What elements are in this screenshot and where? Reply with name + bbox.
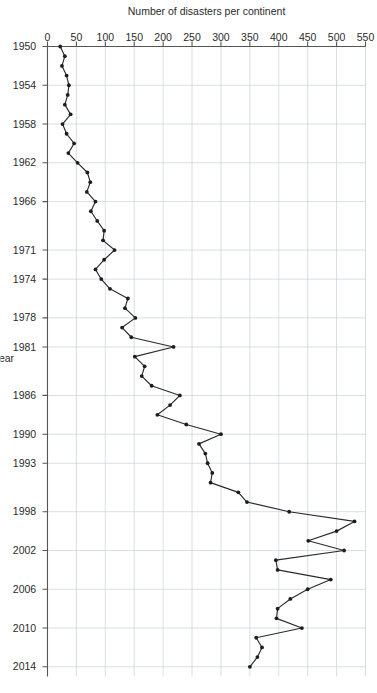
data-point [93,267,97,271]
x-tick-label: 1950 [12,40,36,52]
data-point [184,422,188,426]
data-point [205,461,209,465]
plot-area: 1950195419581962196619711974197819811986… [0,0,377,693]
data-point [120,325,124,329]
data-point [65,93,69,97]
y-tick-label: 350 [241,31,259,43]
y-tick-label: 250 [183,31,201,43]
x-axis-title: Year [0,351,14,363]
data-markers [58,44,356,668]
data-point [58,44,62,48]
y-axis-title: Number of disasters per continent [127,4,285,16]
x-tick-label: 1998 [12,505,36,517]
x-tick-label: 1954 [12,78,36,90]
y-tick-label: 550 [356,31,374,43]
x-tick-label: 1962 [12,156,36,168]
line-chart: 1950195419581962196619711974197819811986… [0,0,377,693]
data-point [68,112,72,116]
data-point [306,538,310,542]
x-axis-tick-labels: 1950195419581962196619711974197819811986… [12,40,36,672]
x-tick-label: 1971 [12,243,36,255]
data-point [236,490,240,494]
y-tick-label: 450 [298,31,316,43]
data-point [66,83,70,87]
gridlines [47,46,365,676]
data-point [210,471,214,475]
x-tick-label: 2014 [12,660,36,672]
y-axis-tick-labels: 050100150200250300350400450500550 [44,31,374,43]
data-point [254,635,258,639]
data-point [125,296,129,300]
x-tick-label: 1990 [12,427,36,439]
x-tick-label: 2006 [12,582,36,594]
axes [47,46,365,676]
x-tick-label: 2010 [12,621,36,633]
data-point [64,131,68,135]
chart-figure: 1950195419581962196619711974197819811986… [0,0,377,693]
y-tick-label: 500 [327,31,345,43]
data-point [101,238,105,242]
x-tick-label: 1966 [12,195,36,207]
x-tick-label: 1986 [12,388,36,400]
x-tick-label: 1978 [12,311,36,323]
y-tick-label: 300 [212,31,230,43]
data-point [99,277,103,281]
x-tick-label: 1974 [12,272,36,284]
y-tick-label: 100 [96,31,114,43]
data-point [64,73,68,77]
y-tick-label: 200 [154,31,172,43]
data-point [260,645,264,649]
data-point [274,616,278,620]
x-tick-label: 1981 [12,340,36,352]
y-tick-label: 400 [270,31,288,43]
data-point [88,180,92,184]
x-tick-label: 1993 [12,456,36,468]
data-point [197,441,201,445]
data-point [273,558,277,562]
y-tick-label: 0 [44,31,50,43]
x-tick-label: 1958 [12,117,36,129]
series-line-disasters [60,46,354,666]
data-point [178,393,182,397]
data-point [132,354,136,358]
rotated-plot-container: 1950195419581962196619711974197819811986… [0,0,377,693]
y-tick-label: 150 [125,31,143,43]
x-tick-label: 2002 [12,544,36,556]
tick-marks [42,41,365,666]
data-point [62,54,66,58]
data-series [60,46,354,666]
y-tick-label: 50 [70,31,82,43]
data-point [155,412,159,416]
data-point [287,509,291,513]
